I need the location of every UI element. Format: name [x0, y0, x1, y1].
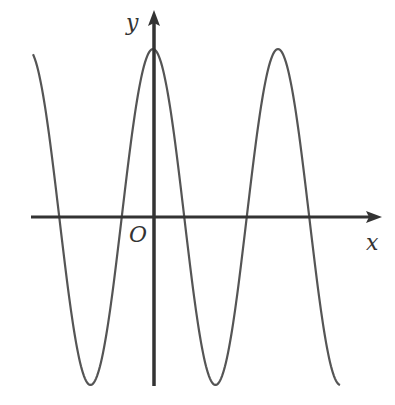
origin-label: O: [129, 222, 147, 247]
x-axis: [31, 211, 382, 223]
x-axis-label: x: [366, 230, 379, 255]
y-axis: [148, 10, 160, 386]
function-graph: y x O: [0, 0, 395, 405]
y-axis-label: y: [125, 10, 139, 35]
